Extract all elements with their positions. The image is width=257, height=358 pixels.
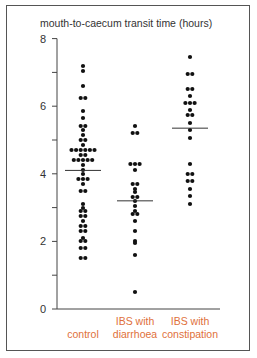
data-point (83, 229, 87, 233)
data-point (133, 124, 137, 128)
data-point (83, 124, 87, 128)
data-point (81, 133, 85, 137)
category-labels: controlIBS withdiarrhoeaIBS withconstipa… (67, 315, 218, 340)
data-point (188, 162, 192, 166)
category-label: IBS with (171, 315, 210, 327)
data-point (131, 212, 135, 216)
data-point (79, 246, 83, 250)
data-point (138, 162, 142, 166)
data-points (65, 55, 208, 294)
category-label: control (67, 328, 99, 340)
data-point (83, 189, 87, 193)
data-point (81, 219, 85, 223)
data-point (81, 116, 85, 120)
data-point (133, 190, 137, 194)
data-point (128, 162, 132, 166)
data-point (83, 138, 87, 142)
data-point (135, 212, 139, 216)
data-point (190, 113, 194, 117)
data-point (79, 124, 83, 128)
data-point (183, 101, 187, 105)
data-point (79, 256, 83, 260)
data-point (83, 148, 87, 152)
data-point (81, 128, 85, 132)
category-label: diarrhoea (113, 328, 158, 340)
data-point (186, 72, 190, 76)
data-point (131, 131, 135, 135)
data-point (135, 182, 139, 186)
data-point (83, 239, 87, 243)
data-point (188, 194, 192, 198)
data-point (188, 187, 192, 191)
data-point (133, 168, 137, 172)
data-point (83, 224, 87, 228)
data-point (83, 256, 87, 260)
data-point (79, 239, 83, 243)
data-point (133, 204, 137, 208)
data-point (79, 138, 83, 142)
data-point (190, 72, 194, 76)
data-point (133, 253, 137, 257)
data-point (193, 101, 197, 105)
y-tick-label: 8 (40, 33, 46, 45)
data-point (81, 109, 85, 113)
data-point (79, 214, 83, 218)
data-point (186, 113, 190, 117)
data-point (188, 136, 192, 140)
y-tick-label: 4 (40, 168, 46, 180)
data-point (188, 121, 192, 125)
data-point (83, 246, 87, 250)
data-point (83, 96, 87, 100)
data-point (81, 177, 85, 181)
data-point (90, 158, 94, 162)
y-tick-label: 0 (40, 303, 46, 315)
data-point (88, 148, 92, 152)
data-point (81, 182, 85, 186)
data-point (190, 179, 194, 183)
data-point (133, 241, 137, 245)
data-point (81, 172, 85, 176)
data-point (79, 229, 83, 233)
data-point (133, 290, 137, 294)
data-point (83, 214, 87, 218)
data-point (83, 209, 87, 213)
data-point (188, 202, 192, 206)
data-point (190, 87, 194, 91)
data-point (186, 179, 190, 183)
data-point (135, 131, 139, 135)
data-point (81, 143, 85, 147)
data-point (188, 108, 192, 112)
data-point (186, 172, 190, 176)
category-label: constipation (162, 328, 218, 340)
category-label: IBS with (116, 315, 155, 327)
data-point (81, 202, 85, 206)
data-point (79, 189, 83, 193)
data-point (131, 182, 135, 186)
data-point (79, 148, 83, 152)
data-point (81, 69, 85, 73)
data-point (188, 101, 192, 105)
data-point (79, 209, 83, 213)
data-point (79, 153, 83, 157)
data-point (83, 153, 87, 157)
data-point (69, 148, 73, 152)
data-point (81, 158, 85, 162)
data-point (133, 229, 137, 233)
data-point (188, 94, 192, 98)
data-point (92, 148, 96, 152)
data-point (81, 64, 85, 68)
data-point (133, 219, 137, 223)
data-point (86, 177, 90, 181)
data-point (76, 177, 80, 181)
data-point (188, 55, 192, 59)
y-tick-label: 2 (40, 235, 46, 247)
data-point (86, 158, 90, 162)
y-tick-label: 6 (40, 100, 46, 112)
data-point (186, 87, 190, 91)
data-point (79, 224, 83, 228)
data-point (131, 195, 135, 199)
data-point (79, 96, 83, 100)
dot-plot: 02468 controlIBS withdiarrhoeaIBS withco… (0, 0, 257, 358)
data-point (135, 195, 139, 199)
data-point (76, 158, 80, 162)
